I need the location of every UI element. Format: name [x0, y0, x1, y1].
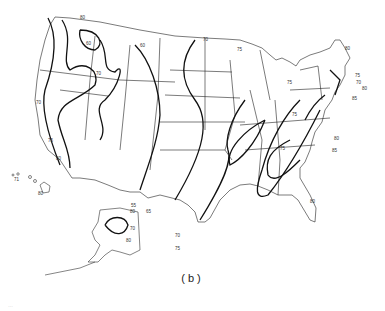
contour-label: 71	[14, 177, 20, 182]
contour-label: 60	[140, 43, 146, 48]
contour-label: 80	[130, 209, 136, 214]
us-contour-map: 80 60 70 75 80 70 60 65 70 70 75 75 80 7…	[0, 0, 385, 311]
contour-label: 75	[237, 47, 243, 52]
state-boundaries	[35, 17, 350, 222]
contour-label: 75	[292, 112, 298, 117]
contour-label: 55	[131, 203, 137, 208]
figure-footnote: …	[8, 302, 14, 308]
contour-label: 85	[332, 148, 338, 153]
contour-label: 80	[56, 156, 62, 161]
contour-label: 80	[310, 199, 316, 204]
contour-label: 70	[356, 80, 362, 85]
contour-label: 70	[36, 100, 42, 105]
contour-label: 75	[175, 246, 181, 251]
figure-caption: (b)	[0, 272, 385, 284]
contour-label: 80	[38, 191, 44, 196]
contour-label: 75	[355, 73, 361, 78]
contour-label: 85	[352, 96, 358, 101]
contour-label: 65	[146, 209, 152, 214]
contour-label: 70	[130, 226, 136, 231]
contour-label: 70	[203, 37, 209, 42]
contour-label: 60	[86, 41, 92, 46]
contour-label: 70	[175, 233, 181, 238]
contour-label: 70	[96, 71, 102, 76]
contour-label: 75	[48, 138, 54, 143]
contour-label: 80	[345, 46, 351, 51]
contour-label: 75	[287, 80, 293, 85]
contour-map-figure: 80 60 70 75 80 70 60 65 70 70 75 75 80 7…	[0, 0, 385, 311]
contour-label: 80	[334, 136, 340, 141]
contour-label: 80	[80, 15, 86, 20]
contour-label: 75	[280, 146, 286, 151]
hawaii-outline	[12, 173, 50, 193]
contour-label: 80	[362, 86, 368, 91]
contour-lines	[44, 18, 340, 234]
contour-label: 80	[126, 238, 132, 243]
